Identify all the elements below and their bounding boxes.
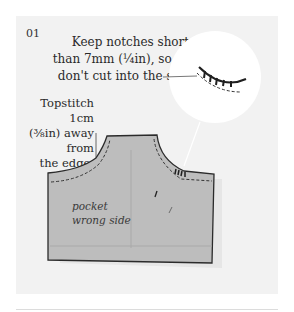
pocket-label-line-2: wrong side [72, 213, 131, 227]
pocket-illustration [0, 0, 294, 312]
pocket-label-line-1: pocket [72, 199, 131, 213]
bottom-divider [16, 309, 278, 310]
magnifier-circle [169, 31, 261, 123]
magnifier-leader-line [184, 122, 200, 166]
pocket-label: pocket wrong side [72, 199, 131, 227]
